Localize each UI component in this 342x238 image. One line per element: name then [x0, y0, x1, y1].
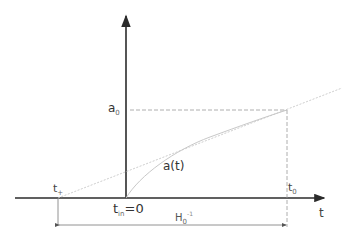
t0-sub: 0 — [292, 188, 296, 196]
a-of-t-curve — [126, 110, 287, 198]
hubble-time-label: H0-1 — [175, 211, 193, 226]
t0-label: t0 — [288, 182, 297, 196]
hubble-main: H — [175, 212, 183, 223]
t-plus-label: t+ — [53, 183, 63, 197]
a-of-t-label: a(t) — [163, 160, 184, 172]
t-in-suffix: =0 — [125, 201, 144, 216]
hubble-sup: -1 — [187, 210, 193, 217]
diagram-canvas — [0, 0, 342, 238]
t-plus-sub: + — [57, 189, 63, 197]
a0-sub: 0 — [115, 109, 119, 117]
hubble-sub: 0 — [183, 218, 187, 226]
t-axis-label: t — [319, 207, 324, 219]
a0-label: a0 — [108, 102, 120, 117]
t-in-label: tin=0 — [113, 202, 144, 218]
tangent-line — [58, 88, 342, 198]
